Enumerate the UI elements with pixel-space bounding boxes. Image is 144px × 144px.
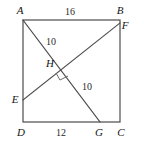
measure-label-dg: 12 [56,127,66,138]
segment-ef [23,23,120,100]
vertex-label-b: B [117,4,124,16]
right-angle-icon [56,73,68,80]
measure-label-ah: 10 [46,36,56,47]
vertex-label-g: G [95,126,103,138]
vertex-label-c: C [117,126,125,138]
segment-ag [23,20,100,122]
measure-label-hg: 10 [82,81,92,92]
vertex-label-f: F [121,19,129,31]
vertex-label-h: H [45,57,55,69]
vertex-label-d: D [16,126,25,138]
geometry-canvas: A B C D E F G H 16 10 10 12 [0,0,144,144]
square-abcd [23,20,120,122]
vertex-label-a: A [16,4,24,16]
measure-label-ab: 16 [65,6,75,17]
vertex-label-e: E [11,93,19,105]
geometry-figure: A B C D E F G H 16 10 10 12 [0,0,144,144]
